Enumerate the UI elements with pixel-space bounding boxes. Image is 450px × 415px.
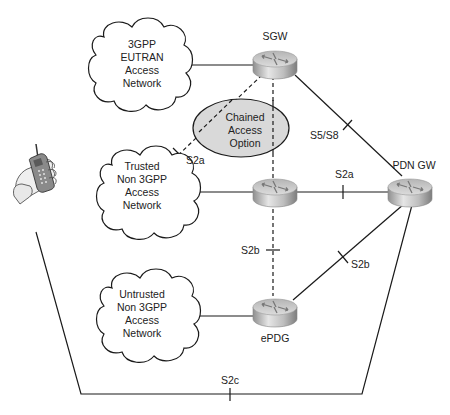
cloud-trusted-line-1: Trusted [124, 160, 159, 172]
mobile-phone-icon [13, 144, 56, 204]
cloud-eutran-line-4: Network [123, 77, 162, 89]
network-diagram: Chained Access Option 3GPP EUTRAN Access… [0, 0, 450, 415]
tick-s2b-epdg [338, 251, 348, 263]
pdn-gw-router-icon [388, 179, 432, 207]
cloud-untrusted-line-1: Untrusted [119, 288, 165, 300]
sgw-router-icon [253, 51, 297, 79]
s2a-chained-label: S2a [186, 154, 205, 166]
s2a-trusted-label: S2a [335, 168, 354, 180]
pdn-gw-label: PDN GW [392, 159, 435, 171]
cloud-untrusted-line-3: Access [125, 314, 159, 326]
s2b-epdg-label: S2b [351, 258, 370, 270]
cloud-eutran-line-1: 3GPP [128, 38, 156, 50]
epdg-label: ePDG [261, 332, 290, 344]
chained-line-2: Access [228, 124, 262, 136]
cloud-eutran-line-3: Access [125, 64, 159, 76]
trusted-gateway-router-icon [253, 179, 297, 207]
sgw-label: SGW [262, 30, 287, 42]
cloud-trusted-line-4: Network [123, 199, 162, 211]
cloud-trusted-line-2: Non 3GPP [117, 173, 167, 185]
cloud-eutran-line-2: EUTRAN [120, 51, 163, 63]
link-s5-s8 [295, 75, 402, 176]
link-s2b-epdg [293, 204, 404, 300]
link-s2c [36, 205, 412, 394]
cloud-untrusted-line-4: Network [123, 327, 162, 339]
s2c-label: S2c [221, 374, 239, 386]
chained-line-1: Chained [225, 111, 264, 123]
cloud-trusted-line-3: Access [125, 186, 159, 198]
chained-access-option: Chained Access Option [193, 99, 289, 157]
s2b-dashed-label: S2b [241, 244, 260, 256]
s5-s8-label: S5/S8 [310, 129, 339, 141]
epdg-router-icon [253, 299, 297, 327]
chained-line-3: Option [230, 137, 261, 149]
cloud-untrusted-line-2: Non 3GPP [117, 301, 167, 313]
